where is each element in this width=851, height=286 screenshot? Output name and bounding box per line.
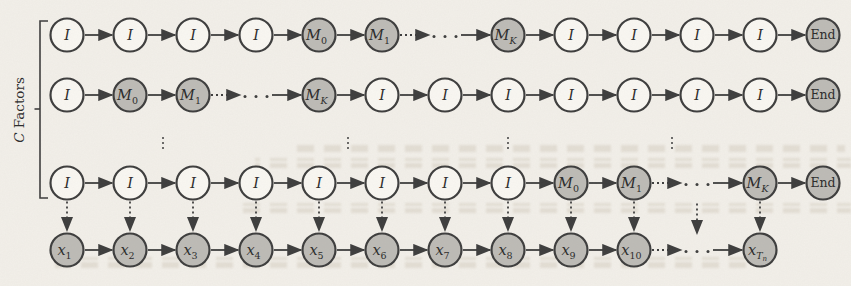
node-label: End <box>810 175 835 190</box>
node-label: I <box>441 175 448 191</box>
node-label: I <box>378 175 385 191</box>
node-label: I <box>441 87 448 103</box>
bleed-smudge <box>235 203 851 213</box>
node-I: I <box>744 19 777 52</box>
diagram-canvas: C FactorsIIIIM0M1MKIIIIEndIM0M1MKIIIIIII… <box>0 0 851 286</box>
ellipsis-dots <box>685 250 710 253</box>
node-I: I <box>366 167 399 200</box>
node-x8: x8 <box>492 234 525 267</box>
node-End: End <box>807 167 840 200</box>
node-I: I <box>114 19 147 52</box>
node-label: I <box>126 175 133 191</box>
node-label: I <box>378 87 385 103</box>
node-M0: M0 <box>114 79 147 112</box>
node-label: I <box>126 27 133 43</box>
scanned-figure: C FactorsIIIIM0M1MKIIIIEndIM0M1MKIIIIIII… <box>0 0 851 286</box>
node-I: I <box>618 19 651 52</box>
ellipsis-dots <box>244 95 269 98</box>
node-label: I <box>189 27 196 43</box>
node-I: I <box>240 19 273 52</box>
node-x7: x7 <box>429 234 462 267</box>
node-I: I <box>177 167 210 200</box>
node-I: I <box>114 167 147 200</box>
node-I: I <box>51 79 84 112</box>
node-I: I <box>51 19 84 52</box>
node-label: I <box>63 27 70 43</box>
node-M0: M0 <box>303 19 336 52</box>
factor-chain-C: IIIIIIIIM0M1MKEnd <box>51 167 840 200</box>
vertical-ellipsis <box>162 137 164 149</box>
node-label: I <box>504 175 511 191</box>
node-label: I <box>630 27 637 43</box>
node-I: I <box>492 79 525 112</box>
node-label: I <box>756 27 763 43</box>
node-I: I <box>429 79 462 112</box>
node-MK: MK <box>303 79 336 112</box>
node-label: I <box>63 87 70 103</box>
ellipsis-dots <box>433 35 458 38</box>
node-x1: x1 <box>51 234 84 267</box>
node-I: I <box>555 19 588 52</box>
node-I: I <box>555 79 588 112</box>
node-M1: M1 <box>366 19 399 52</box>
node-I: I <box>492 167 525 200</box>
node-I: I <box>618 79 651 112</box>
node-x5: x5 <box>303 234 336 267</box>
node-x3: x3 <box>177 234 210 267</box>
node-x6: x6 <box>366 234 399 267</box>
factors-bracket <box>35 21 49 198</box>
node-label: I <box>504 87 511 103</box>
node-I: I <box>681 19 714 52</box>
ellipsis-dots <box>685 183 710 186</box>
node-label: I <box>756 87 763 103</box>
node-M0: M0 <box>555 167 588 200</box>
node-MK: MK <box>744 167 777 200</box>
node-I: I <box>744 79 777 112</box>
factor-chain-2: IM0M1MKIIIIIIIEnd <box>51 79 840 112</box>
node-x2: x2 <box>114 234 147 267</box>
node-label: I <box>693 87 700 103</box>
node-label: I <box>567 27 574 43</box>
factor-chain-1: IIIIM0M1MKIIIIEnd <box>51 19 840 52</box>
factors-bracket-label: C Factors <box>11 77 27 143</box>
node-label: I <box>315 175 322 191</box>
node-x4: x4 <box>240 234 273 267</box>
bleed-smudge <box>55 257 755 268</box>
node-I: I <box>51 167 84 200</box>
node-MK: MK <box>492 19 525 52</box>
node-xTn: xTn <box>744 234 777 267</box>
bleed-smudge <box>295 143 845 152</box>
node-I: I <box>366 79 399 112</box>
node-label: I <box>630 87 637 103</box>
node-I: I <box>240 167 273 200</box>
node-label: End <box>810 87 835 102</box>
node-M1: M1 <box>618 167 651 200</box>
node-x9: x9 <box>555 234 588 267</box>
node-I: I <box>429 167 462 200</box>
node-label: I <box>252 175 259 191</box>
node-I: I <box>303 167 336 200</box>
node-label: End <box>810 27 835 42</box>
node-label: I <box>693 27 700 43</box>
node-label: I <box>567 87 574 103</box>
node-x10: x10 <box>618 234 651 267</box>
node-label: I <box>63 175 70 191</box>
node-M1: M1 <box>177 79 210 112</box>
node-I: I <box>177 19 210 52</box>
node-I: I <box>681 79 714 112</box>
node-End: End <box>807 79 840 112</box>
node-End: End <box>807 19 840 52</box>
node-label: I <box>252 27 259 43</box>
node-label: I <box>189 175 196 191</box>
